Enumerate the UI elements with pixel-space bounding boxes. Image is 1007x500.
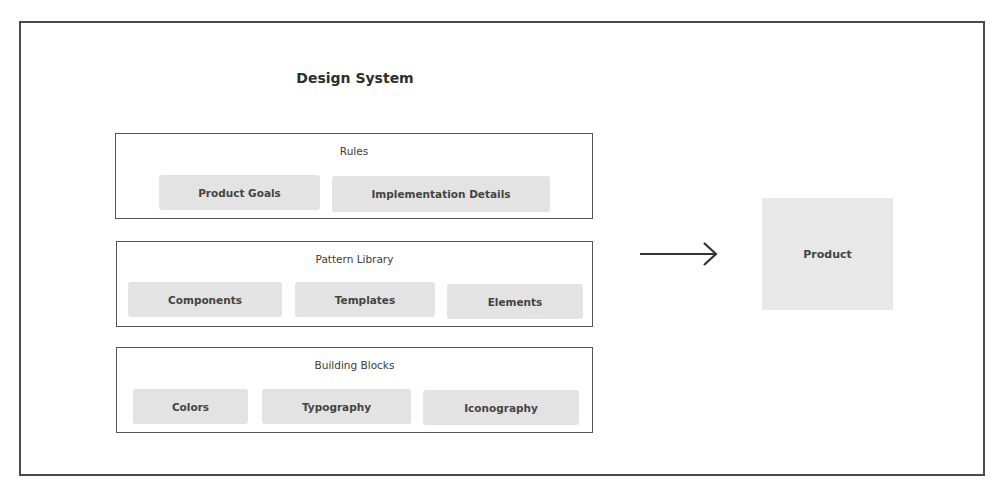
pill-templates: Templates xyxy=(295,282,435,317)
pill-iconography: Iconography xyxy=(423,390,579,425)
group-label: Pattern Library xyxy=(117,253,592,265)
group-label: Building Blocks xyxy=(117,359,592,371)
group-label: Rules xyxy=(116,145,592,157)
diagram-title: Design System xyxy=(230,70,480,86)
pill-product-goals: Product Goals xyxy=(159,175,320,210)
product-box: Product xyxy=(762,198,893,310)
pill-typography: Typography xyxy=(262,389,411,424)
group-building-blocks: Building Blocks Colors Typography Iconog… xyxy=(116,347,593,433)
group-rules: Rules Product Goals Implementation Detai… xyxy=(115,133,593,219)
pill-elements: Elements xyxy=(447,284,583,319)
pill-implementation-details: Implementation Details xyxy=(332,176,550,212)
arrow-right-icon xyxy=(638,241,720,267)
pill-colors: Colors xyxy=(133,389,248,424)
pill-components: Components xyxy=(128,282,282,317)
group-pattern-library: Pattern Library Components Templates Ele… xyxy=(116,241,593,327)
